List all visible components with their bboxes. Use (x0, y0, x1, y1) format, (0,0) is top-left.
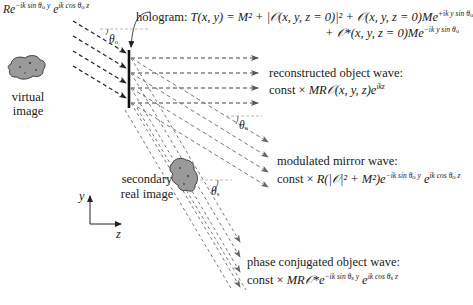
reconstructed-formula-body: MR𝒪(x, y, z)e (309, 83, 377, 97)
reconstructed-wave-rays (131, 58, 258, 103)
virtual-image-object (8, 56, 45, 80)
incident-angle-label: θo (109, 34, 118, 46)
hologram-exp2-sub: o (456, 27, 459, 34)
conjugate-e2: e (359, 273, 368, 287)
theta-subscript: s (217, 190, 220, 197)
reference-wave-label: Re−ik sin θo y eik cos θo z (3, 4, 89, 16)
theta-subscript: o (115, 38, 118, 45)
secondary-angle-label: θs (211, 186, 219, 198)
incident-angle-marker (100, 29, 148, 35)
const-prefix: const × (277, 172, 317, 186)
theta-subscript: o (245, 124, 248, 131)
const-prefix: const × (269, 83, 309, 97)
hologram-exp1: +ik y sin θ (438, 9, 470, 18)
hologram-equation-line1: hologram: T(x, y) = M² + |𝒪(x, y, z = 0)… (136, 11, 473, 24)
reconstructed-wave-title: reconstructed object wave: (269, 67, 403, 80)
virtual-image-line2: image (8, 104, 48, 118)
secondary-image-label: secondary real image (112, 172, 182, 202)
mirror-e2: e (421, 172, 430, 186)
conjugate-exp1: −ik sin θ (325, 272, 352, 281)
conjugate-exp2: ik cos θ (368, 272, 391, 281)
mirror-wave-formula: const × R(|𝒪|² + M²)e−ik sin θo y eik co… (277, 173, 460, 186)
secondary-image-line1: secondary (112, 172, 182, 187)
reconstructed-wave-formula: const × MR𝒪(x, y, z)eikz (269, 84, 385, 97)
conjugate-wave-formula: const × MR𝒪*e−ik sin θs y eik cos θs z (247, 274, 398, 287)
reference-amplitude-symbol: R (3, 3, 10, 15)
mirror-exp2-tail: z (456, 171, 461, 180)
conjugate-exp2-tail: z (393, 272, 398, 281)
reference-exp1-tail: y (45, 1, 50, 10)
virtual-image-line1: virtual (8, 90, 48, 104)
hologram-label: hologram: (136, 10, 187, 24)
conjugate-wave-title: phase conjugated object wave: (247, 256, 400, 269)
hologram-equation-line2: + 𝒪*(x, y, z = 0)Me−ik y sin θo (325, 27, 459, 40)
reference-exp2: ik cos θ (58, 1, 81, 10)
y-axis-label: y (79, 190, 85, 203)
reference-exp1: −ik sin θ (15, 1, 42, 10)
z-axis-label: z (116, 228, 121, 241)
hologram-transmittance: T(x, y) = M² + |𝒪(x, y, z = 0)|² + 𝒪(x, … (191, 10, 438, 24)
reference-exp2-tail: z (84, 1, 89, 10)
hologram-conjugate-term: + 𝒪*(x, y, z = 0)Me (325, 26, 424, 40)
mirror-formula-body: (|𝒪|² + M²)e (324, 172, 385, 186)
mirror-wave-title: modulated mirror wave: (277, 155, 398, 168)
const-prefix: const × (247, 273, 287, 287)
mirror-angle-label: θo (239, 120, 248, 132)
mirror-exp2: ik cos θ (430, 171, 453, 180)
secondary-image-line2: real image (112, 187, 182, 202)
mirror-exp1: −ik sin θ (386, 171, 413, 180)
conjugate-formula-body: MR𝒪*e (287, 273, 325, 287)
reconstructed-formula-exp: ikz (376, 82, 384, 91)
reference-wave-rays (73, 21, 126, 98)
hologram-exp2: −ik y sin θ (424, 25, 456, 34)
virtual-image-label: virtual image (8, 90, 48, 118)
